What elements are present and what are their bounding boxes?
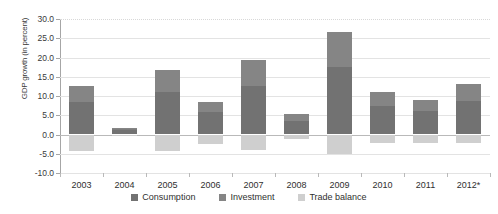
x-axis-tick (318, 173, 319, 177)
bar-segment-trade-balance[interactable] (155, 135, 179, 152)
bar-segment-consumption[interactable] (241, 86, 265, 134)
bar-segment-consumption[interactable] (284, 121, 308, 135)
bar-slot[interactable] (103, 19, 146, 173)
bar-positive[interactable] (370, 92, 394, 134)
x-axis-tick (404, 173, 405, 177)
bar-segment-trade-balance[interactable] (370, 135, 394, 143)
x-axis-tick (490, 173, 491, 177)
bar-segment-trade-balance[interactable] (69, 135, 93, 151)
bar-positive[interactable] (241, 60, 265, 134)
legend-item[interactable]: Trade balance (298, 192, 366, 202)
gdp-growth-chart: GDP growth (in percent) -10.0-5.00.05.01… (0, 0, 498, 214)
legend-item[interactable]: Consumption (131, 192, 195, 202)
bar-segment-trade-balance[interactable] (241, 135, 265, 150)
y-axis-tick-label: -5.0 (39, 149, 54, 159)
bar-positive[interactable] (327, 32, 351, 135)
legend-swatch-icon (131, 194, 138, 201)
x-axis-tick-label: 2010 (372, 180, 392, 190)
x-axis-tick (189, 173, 190, 177)
bar-segment-investment[interactable] (155, 70, 179, 92)
bar-segment-consumption[interactable] (155, 92, 179, 134)
bar-slot[interactable] (404, 19, 447, 173)
bar-segment-trade-balance[interactable] (112, 135, 136, 136)
legend-swatch-icon (219, 194, 226, 201)
y-axis-tick-label: 5.0 (42, 110, 54, 120)
x-axis-tick (361, 173, 362, 177)
chart-legend: ConsumptionInvestmentTrade balance (0, 192, 498, 202)
bar-positive[interactable] (456, 84, 480, 134)
bar-segment-consumption[interactable] (413, 111, 437, 134)
bar-positive[interactable] (413, 100, 437, 135)
x-axis-tick-label: 2012* (457, 180, 481, 190)
x-axis-tick-label: 2007 (243, 180, 263, 190)
bar-slot[interactable] (189, 19, 232, 173)
y-axis-tick-label: 0.0 (42, 130, 54, 140)
bar-segment-trade-balance[interactable] (198, 135, 222, 145)
y-axis-tick-label: 10.0 (37, 91, 54, 101)
y-axis-tick-label: 15.0 (37, 72, 54, 82)
x-axis-tick (232, 173, 233, 177)
bar-segment-trade-balance[interactable] (456, 135, 480, 144)
legend-item[interactable]: Investment (219, 192, 274, 202)
x-axis-tick-label: 2006 (200, 180, 220, 190)
plot-area: -10.0-5.00.05.010.015.020.025.030.0 2003… (60, 19, 490, 173)
bar-positive[interactable] (69, 86, 93, 135)
x-axis-tick-label: 2005 (157, 180, 177, 190)
y-axis-tick-label: 20.0 (37, 53, 54, 63)
x-axis-tick-label: 2011 (416, 180, 435, 190)
y-axis-tick-label: 30.0 (37, 14, 54, 24)
bar-segment-consumption[interactable] (198, 112, 222, 134)
bar-slot[interactable] (275, 19, 318, 173)
bar-segment-investment[interactable] (370, 92, 394, 106)
x-axis-tick (103, 173, 104, 177)
y-axis-title: GDP growth (in percent) (20, 0, 29, 129)
x-axis-tick-label: 2008 (286, 180, 306, 190)
bar-segment-consumption[interactable] (327, 67, 351, 134)
bar-segment-consumption[interactable] (370, 106, 394, 134)
x-axis-tick-label: 2009 (329, 180, 349, 190)
x-axis-tick-label: 2003 (71, 180, 91, 190)
bar-positive[interactable] (155, 70, 179, 134)
bar-segment-investment[interactable] (327, 32, 351, 67)
bar-slot[interactable] (232, 19, 275, 173)
bar-slot[interactable] (318, 19, 361, 173)
bar-slot[interactable] (361, 19, 404, 173)
bar-segment-investment[interactable] (413, 100, 437, 112)
bar-segment-investment[interactable] (284, 114, 308, 121)
legend-swatch-icon (298, 194, 305, 201)
bar-segment-consumption[interactable] (456, 101, 480, 134)
x-axis-tick (447, 173, 448, 177)
bar-segment-investment[interactable] (198, 102, 222, 112)
x-axis-tick (60, 173, 61, 177)
bar-segment-trade-balance[interactable] (413, 135, 437, 144)
x-axis-tick (146, 173, 147, 177)
bar-segment-consumption[interactable] (69, 102, 93, 135)
legend-label: Investment (230, 192, 274, 202)
bar-segment-trade-balance[interactable] (284, 135, 308, 140)
y-axis-tick-label: -10.0 (35, 168, 54, 178)
bar-slot[interactable] (447, 19, 490, 173)
bar-segment-investment[interactable] (456, 84, 480, 101)
bar-positive[interactable] (284, 114, 308, 134)
legend-label: Consumption (142, 192, 195, 202)
x-axis-tick-label: 2004 (114, 180, 134, 190)
bar-slot[interactable] (60, 19, 103, 173)
y-axis-tick-label: 25.0 (37, 33, 54, 43)
x-axis-tick (275, 173, 276, 177)
bar-positive[interactable] (198, 102, 222, 135)
legend-label: Trade balance (309, 192, 366, 202)
bar-segment-investment[interactable] (241, 60, 265, 86)
bar-positive[interactable] (112, 128, 136, 135)
bar-segment-trade-balance[interactable] (327, 135, 351, 154)
bar-segment-investment[interactable] (69, 86, 93, 102)
bar-slot[interactable] (146, 19, 189, 173)
